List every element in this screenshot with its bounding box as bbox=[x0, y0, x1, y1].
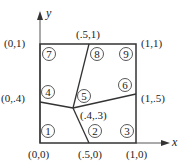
node-4: 4 bbox=[42, 86, 55, 99]
y-axis-arrow-icon bbox=[37, 11, 43, 20]
partition-diagram: y x (0,1) (.5,1) (1,1) (0,.4) (1,.5) (.4… bbox=[0, 0, 185, 166]
label-top-right: (1,1) bbox=[141, 37, 162, 50]
svg-text:3: 3 bbox=[124, 125, 130, 137]
node-7: 7 bbox=[43, 48, 56, 61]
label-origin: (0,0) bbox=[28, 148, 49, 161]
svg-text:4: 4 bbox=[45, 86, 51, 98]
node-9: 9 bbox=[120, 48, 133, 61]
label-left-mid: (0,.4) bbox=[1, 92, 25, 105]
label-center: (.4,.3) bbox=[80, 109, 107, 122]
node-2: 2 bbox=[89, 125, 102, 138]
svg-text:2: 2 bbox=[92, 125, 98, 137]
label-top-mid: (.5,1) bbox=[76, 28, 100, 41]
x-axis-arrow-icon bbox=[161, 140, 170, 146]
label-top-left: (0,1) bbox=[4, 37, 25, 50]
node-6: 6 bbox=[119, 79, 132, 92]
y-axis-label: y bbox=[45, 6, 52, 20]
edge-center-to-left bbox=[40, 102, 73, 108]
svg-text:5: 5 bbox=[81, 90, 87, 102]
svg-text:1: 1 bbox=[45, 125, 51, 137]
svg-text:9: 9 bbox=[123, 48, 129, 60]
svg-text:8: 8 bbox=[94, 48, 100, 60]
svg-text:6: 6 bbox=[122, 79, 128, 91]
label-right-mid: (1,.5) bbox=[141, 92, 165, 105]
node-3: 3 bbox=[121, 125, 134, 138]
label-bottom-mid: (.5,0) bbox=[78, 148, 102, 161]
node-5: 5 bbox=[78, 90, 91, 103]
node-1: 1 bbox=[42, 125, 55, 138]
node-8: 8 bbox=[91, 48, 104, 61]
svg-text:7: 7 bbox=[46, 48, 52, 60]
label-bottom-right: (1,0) bbox=[126, 148, 147, 161]
x-axis-label: x bbox=[171, 135, 178, 149]
